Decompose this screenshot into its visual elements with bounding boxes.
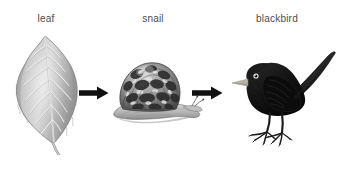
stage-label-snail: snail: [142, 13, 164, 25]
food-chain-diagram: leaf snail blackbird: [0, 0, 337, 170]
arrow-leaf-to-snail: [79, 85, 109, 101]
blackbird-illustration: [226, 34, 336, 149]
stage-label-leaf: leaf: [38, 13, 55, 25]
leaf-illustration: [6, 30, 86, 155]
arrow-snail-to-blackbird: [192, 85, 223, 101]
stage-label-blackbird: blackbird: [256, 13, 298, 25]
snail-illustration: [107, 52, 205, 132]
